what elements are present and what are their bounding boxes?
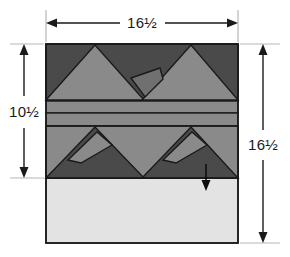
top-triangle-band <box>46 44 238 101</box>
right-dim-arrowhead-bottom <box>259 232 268 243</box>
right-dimension: 16½ <box>240 44 280 243</box>
quilt-block-diagram: 16½ 10½ 16½ <box>0 0 290 257</box>
diagram-canvas: 16½ 10½ 16½ <box>0 0 290 257</box>
right-dimension-label: 16½ <box>248 136 278 153</box>
block-body <box>46 44 238 243</box>
top-dim-arrowhead-left <box>46 19 57 28</box>
left-dim-arrowhead-top <box>20 44 29 55</box>
plain-bottom-panel <box>46 178 238 243</box>
top-dim-arrowhead-right <box>227 19 238 28</box>
left-dim-arrowhead-bottom <box>20 167 29 178</box>
top-dimension-label: 16½ <box>127 14 157 31</box>
left-dimension-label: 10½ <box>9 103 39 120</box>
upper-strip <box>46 101 238 113</box>
lower-strip <box>46 113 238 126</box>
bottom-triangle-band <box>46 126 238 178</box>
left-dimension: 10½ <box>9 44 44 178</box>
right-dim-arrowhead-top <box>259 44 268 55</box>
top-dimension: 16½ <box>46 10 238 42</box>
